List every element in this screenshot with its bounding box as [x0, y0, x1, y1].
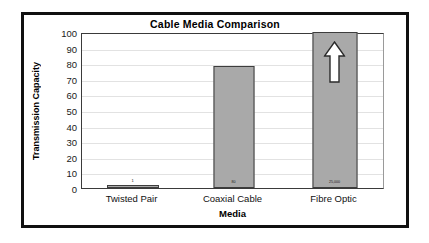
y-axis-tick-label: 100: [35, 28, 81, 39]
bar-slot: 80: [183, 34, 284, 188]
y-axis-tick-label: 30: [35, 137, 81, 148]
y-axis-tick-label: 10: [35, 168, 81, 179]
bar-value-label: 25,000: [313, 181, 356, 185]
bar[interactable]: 1: [107, 185, 159, 188]
y-axis-tick-label: 80: [35, 59, 81, 70]
y-axis-tick-label: 70: [35, 74, 81, 85]
up-arrow-icon: [324, 41, 346, 83]
y-axis-tick-label: 20: [35, 152, 81, 163]
bar[interactable]: 80: [213, 66, 254, 188]
chart-frame: Cable Media Comparison Transmission Capa…: [21, 12, 409, 228]
bar-slot: 25,000: [284, 34, 385, 188]
y-axis-tick-label: 90: [35, 43, 81, 54]
x-axis-category-label: Fibre Optic: [283, 193, 384, 204]
x-axis-title: Media: [81, 208, 384, 219]
x-axis-category-label: Coaxial Cable: [182, 193, 283, 204]
bar[interactable]: 25,000: [312, 32, 357, 188]
plot-area: 18025,000: [81, 33, 384, 189]
y-axis-tick-label: 60: [35, 90, 81, 101]
y-axis-tick-label: 40: [35, 121, 81, 132]
y-axis-tick-label: 50: [35, 106, 81, 117]
y-axis-tick-labels: 0102030405060708090100: [29, 33, 81, 189]
bar-value-label: 80: [214, 181, 253, 185]
x-axis-category-labels: Twisted PairCoaxial CableFibre Optic: [81, 193, 384, 209]
bar-slot: 1: [82, 34, 183, 188]
chart-title: Cable Media Comparison: [24, 18, 406, 30]
bar-value-label: 1: [108, 179, 158, 183]
y-axis-tick-label: 0: [35, 184, 81, 195]
x-axis-category-label: Twisted Pair: [81, 193, 182, 204]
